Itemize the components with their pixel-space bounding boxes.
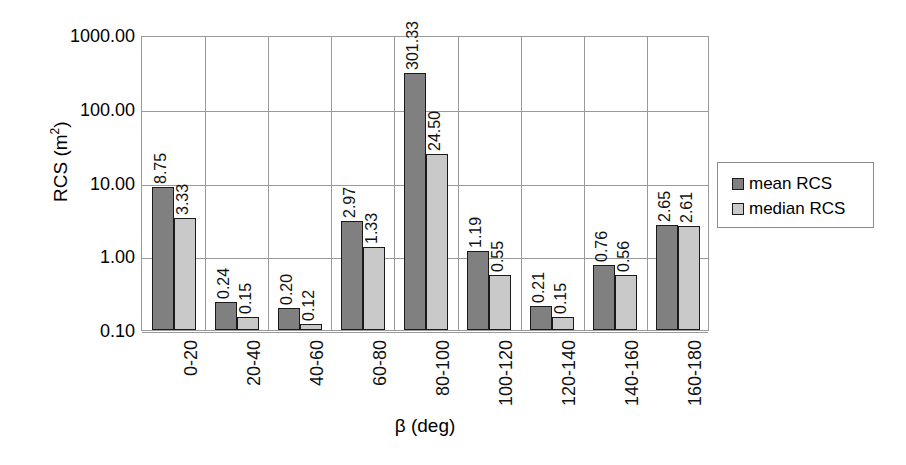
bar-mean-rcs[interactable]: [530, 306, 552, 330]
y-axis-tick-label: 1.00: [43, 248, 135, 266]
bar-median-rcs[interactable]: [237, 317, 259, 330]
bar-group: 8.753.33: [142, 37, 205, 330]
legend-item-label: median RCS: [749, 199, 845, 219]
bar-value-label: 2.97: [342, 187, 358, 218]
chart-legend: mean RCSmedian RCS: [717, 162, 874, 228]
bar-value-label: 0.21: [531, 272, 547, 303]
bar-value-label: 301.33: [405, 21, 421, 70]
x-axis-tick-label: 80-100: [434, 340, 452, 396]
y-axis-tick-label: 10.00: [43, 175, 135, 193]
x-axis-tick-labels: 0-2020-4040-6060-8080-100100-120120-1401…: [141, 340, 709, 420]
bar-mean-rcs[interactable]: [278, 308, 300, 330]
x-axis-tick-label: 0-20: [182, 340, 200, 376]
x-axis-tick-label: 20-40: [245, 340, 263, 386]
bar-value-label: 0.56: [616, 241, 632, 272]
bar-mean-rcs[interactable]: [593, 265, 615, 330]
bar-median-rcs[interactable]: [552, 317, 574, 330]
bar-mean-rcs[interactable]: [152, 187, 174, 330]
y-axis-tick-labels: 1000.00100.0010.001.000.10: [40, 0, 135, 465]
x-axis-tick-label: 140-160: [623, 340, 641, 406]
bar-value-label: 0.76: [594, 231, 610, 262]
bar-value-label: 0.20: [279, 274, 295, 305]
bar-value-label: 2.65: [657, 191, 673, 222]
legend-swatch-mean-icon: [732, 178, 744, 190]
bar-median-rcs[interactable]: [615, 275, 637, 330]
horizontal-gridline: [142, 332, 708, 333]
x-axis-tick-label: 160-180: [686, 340, 704, 406]
bar-median-rcs[interactable]: [363, 247, 385, 330]
bar-group: 301.3324.50: [394, 37, 457, 330]
bar-group: 0.210.15: [521, 37, 584, 330]
x-axis-tick-label: 40-60: [308, 340, 326, 386]
bar-group: 0.760.56: [584, 37, 647, 330]
bar-median-rcs[interactable]: [489, 275, 511, 330]
x-axis-tick-label: 100-120: [497, 340, 515, 406]
bar-median-rcs[interactable]: [174, 218, 196, 330]
bar-median-rcs[interactable]: [426, 154, 448, 330]
bar-group: 0.200.12: [268, 37, 331, 330]
bar-value-label: 0.24: [216, 268, 232, 299]
bar-value-label: 1.33: [364, 213, 380, 244]
bar-value-label: 2.61: [679, 191, 695, 222]
y-axis-tick-label: 1000.00: [43, 27, 135, 45]
x-axis-title: β (deg): [141, 415, 709, 437]
bar-value-label: 24.50: [427, 111, 443, 151]
legend-item[interactable]: mean RCS: [732, 171, 873, 196]
bar-value-label: 8.75: [153, 153, 169, 184]
bar-value-label: 3.33: [175, 184, 191, 215]
x-axis-tick-label: 120-140: [560, 340, 578, 406]
y-axis-tick-label: 100.00: [43, 101, 135, 119]
bar-group: 1.190.55: [458, 37, 521, 330]
bar-value-label: 0.15: [553, 283, 569, 314]
bar-value-label: 0.15: [238, 283, 254, 314]
bar-mean-rcs[interactable]: [215, 302, 237, 330]
bar-group: 2.652.61: [647, 37, 710, 330]
bar-group: 2.971.33: [331, 37, 394, 330]
rcs-bar-chart: RCS (m2) 1000.00100.0010.001.000.10 8.75…: [0, 0, 906, 465]
legend-item-label: mean RCS: [749, 174, 832, 194]
bar-group: 0.240.15: [205, 37, 268, 330]
bar-mean-rcs[interactable]: [341, 221, 363, 330]
plot-area: 8.753.330.240.150.200.122.971.33301.3324…: [141, 36, 709, 331]
bar-median-rcs[interactable]: [678, 226, 700, 330]
bar-mean-rcs[interactable]: [467, 251, 489, 330]
legend-item[interactable]: median RCS: [732, 196, 873, 221]
x-axis-tick-label: 60-80: [371, 340, 389, 386]
legend-swatch-median-icon: [732, 203, 744, 215]
bar-value-label: 0.55: [490, 241, 506, 272]
bar-value-label: 0.12: [301, 290, 317, 321]
bar-median-rcs[interactable]: [300, 324, 322, 330]
y-axis-tick-label: 0.10: [43, 322, 135, 340]
bar-value-label: 1.19: [468, 217, 484, 248]
bar-mean-rcs[interactable]: [656, 225, 678, 330]
bar-mean-rcs[interactable]: [404, 73, 426, 330]
